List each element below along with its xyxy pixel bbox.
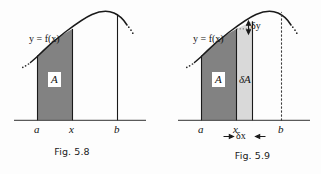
- axis-label-a-fig59: a: [198, 124, 204, 135]
- delta-x-label: δx: [236, 131, 246, 141]
- figure-caption-5-9: Fig. 5.9: [172, 150, 321, 161]
- axis-label-x-fig58: x: [69, 124, 74, 135]
- figure-5-9: y = f(x) A δA δy a x b δx Fig. 5.9: [160, 0, 321, 174]
- axis-label-b-fig58: b: [114, 124, 120, 135]
- delta-y-label: δy: [251, 21, 261, 31]
- axis-label-b-fig59: b: [278, 124, 284, 135]
- strip-label-deltaA: δA: [236, 72, 254, 87]
- curve-left-dots: [186, 63, 193, 68]
- curve-label-fig58: y = f(x): [29, 34, 60, 44]
- curve-label-fig59: y = f(x): [193, 34, 224, 44]
- figure-5-8: y = f(x) A a x b Fig. 5.8: [0, 0, 160, 174]
- shaded-strip-deltaA: [237, 21, 253, 120]
- curve-right-dots: [292, 26, 298, 34]
- area-label-A-fig59: A: [212, 72, 225, 87]
- area-label-A-fig58: A: [48, 72, 61, 87]
- figure-5-9-graphic: [160, 0, 321, 174]
- axis-label-a-fig58: a: [34, 124, 40, 135]
- curve-left-dots: [22, 63, 29, 68]
- figure-caption-5-8: Fig. 5.8: [0, 146, 152, 157]
- curve-right-dots: [128, 26, 134, 34]
